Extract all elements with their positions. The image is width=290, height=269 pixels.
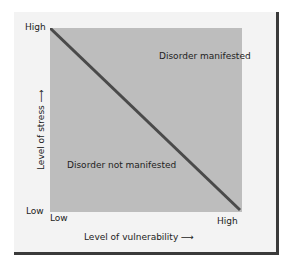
y-axis-high-label: High [25, 22, 46, 32]
region-label-not-manifested: Disorder not manifested [67, 160, 176, 170]
x-axis-high-label: High [217, 216, 238, 226]
arrow-right-icon: ⟶ [178, 232, 194, 242]
region-label-manifested: Disorder manifested [159, 51, 251, 61]
x-axis-title: Level of vulnerability ⟶ [84, 232, 194, 242]
arrow-up-icon: ⟶ [36, 89, 46, 105]
x-axis-low-label: Low [50, 213, 68, 223]
y-axis-title: Level of stress ⟶ [36, 89, 46, 170]
y-axis-low-label: Low [26, 206, 44, 216]
